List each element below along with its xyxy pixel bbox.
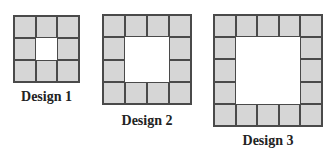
tile [169,37,191,59]
design-1-label: Design 1 [13,89,80,105]
tile [36,16,58,38]
empty-center [236,37,301,104]
tile [57,60,79,82]
tile [14,60,36,82]
tile [300,59,322,81]
tile [300,82,322,104]
design-2-label: Design 2 [102,113,192,129]
design-3-grid [213,14,323,127]
tile [147,82,169,104]
tile [103,82,125,104]
design-2-grid [102,14,192,105]
tile [57,38,79,60]
tile [125,82,147,104]
tile [236,15,258,37]
tile [103,37,125,59]
tile [279,15,301,37]
tile [236,104,258,126]
tile [103,60,125,82]
tile [103,15,125,37]
tile [300,37,322,59]
empty-center [125,37,169,82]
tile [14,38,36,60]
tile [257,15,279,37]
tile [214,37,236,59]
tile [147,15,169,37]
tile [214,104,236,126]
tile [300,104,322,126]
tile [57,16,79,38]
design-1-grid [13,15,80,83]
tile [36,60,58,82]
empty-center [36,38,58,60]
tile [14,16,36,38]
tile [214,59,236,81]
tile [169,15,191,37]
tile [125,15,147,37]
tile [169,82,191,104]
tile [279,104,301,126]
tile [300,15,322,37]
tile [214,82,236,104]
tile [214,15,236,37]
tile [169,60,191,82]
design-3-label: Design 3 [213,133,323,149]
tile [257,104,279,126]
